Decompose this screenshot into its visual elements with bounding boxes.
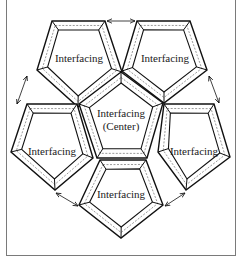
- label-left: Interfacing: [28, 145, 77, 157]
- label-center-line2: (Center): [103, 120, 140, 133]
- label-right: Interfacing: [170, 145, 219, 157]
- label-center-line1: Interfacing: [97, 107, 146, 119]
- label-top-right: Interfacing: [141, 52, 190, 64]
- arrow-bottom-right: [165, 193, 185, 206]
- label-bottom: Interfacing: [97, 188, 146, 200]
- pentagon-quilt-diagram: Interfacing Interfacing Interfacing Inte…: [0, 0, 245, 262]
- arrow-left: [17, 76, 27, 104]
- label-top-left: Interfacing: [55, 52, 104, 64]
- arrow-right: [209, 76, 219, 103]
- arrow-bottom-left: [56, 193, 78, 206]
